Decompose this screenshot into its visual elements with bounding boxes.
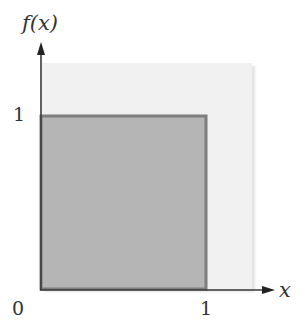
y-axis-label: f(x): [20, 11, 58, 35]
density-area: [41, 116, 206, 289]
y-tick-1: 1: [13, 103, 25, 125]
x-axis-arrow-icon: [262, 286, 275, 294]
uniform-density-chart: f(x) x 1 0 1: [0, 0, 308, 333]
x-tick-1: 1: [200, 297, 212, 319]
x-axis-label: x: [279, 278, 291, 302]
origin-label: 0: [12, 297, 24, 319]
y-axis-arrow-icon: [37, 42, 45, 55]
chart-canvas: f(x) x 1 0 1: [0, 0, 308, 333]
